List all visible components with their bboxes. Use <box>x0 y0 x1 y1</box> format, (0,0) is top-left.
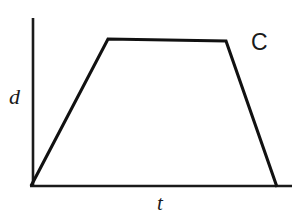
trapezoid-data-curve <box>31 39 277 187</box>
x-axis-label: t <box>157 193 163 214</box>
figure-option-label: C <box>251 31 268 54</box>
figure-canvas: d t C <box>0 0 300 224</box>
y-axis-label: d <box>9 86 20 108</box>
